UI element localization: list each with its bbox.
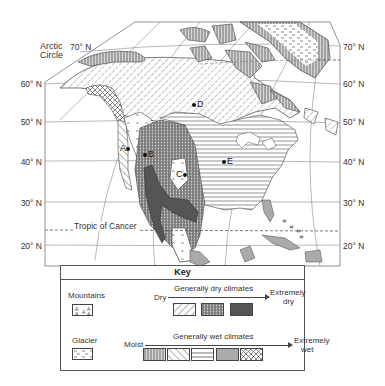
key-wet-end-label-line1: Extremely: [294, 336, 330, 345]
key-wet-heading: Generally wet climates: [173, 332, 253, 341]
lat-label-left-50: 50° N: [0, 118, 42, 127]
key-mountains-label: Mountains: [68, 291, 105, 300]
lat-label-right-50: 50° N: [343, 118, 364, 127]
key-dry-end-label-line2: dry: [283, 297, 294, 306]
glacier-swatch-icon: [72, 348, 93, 360]
point-b-label: B: [148, 149, 154, 159]
wet-gray-swatch-icon: [216, 348, 239, 361]
key-glacier-label: Glacier: [72, 336, 97, 345]
point-e-label: E: [227, 156, 233, 166]
tropic-of-cancer-label: Tropic of Cancer: [73, 222, 138, 231]
svg-text:A: A: [75, 311, 79, 316]
mountains-swatch-icon: A A A A A: [72, 304, 93, 316]
wet-diagonal-swatch-icon: [167, 348, 190, 361]
climate-map-figure: ^: [0, 0, 385, 386]
key-wet-end-label-line2: wet: [301, 345, 313, 354]
point-e-dot: [222, 160, 226, 164]
svg-text:A: A: [82, 309, 86, 315]
key-dry-arrow-line: [168, 297, 266, 298]
point-e: E: [222, 156, 233, 166]
dry-diagonal-swatch-icon: [173, 303, 196, 316]
wet-horizontal-swatch-icon: [191, 348, 214, 361]
key-dry-end-label-line1: Extremely: [270, 288, 306, 297]
key-dry-heading: Generally dry climates: [174, 284, 253, 293]
key-wet-arrow-line: [145, 345, 289, 346]
key-title: Key: [61, 266, 304, 280]
map-key: Key Mountains A A A A A Glacier Dry Gene…: [60, 265, 305, 371]
lat-label-right-30: 30° N: [343, 199, 364, 208]
dry-dotted-swatch-icon: [201, 303, 224, 316]
lat-label-right-40: 40° N: [343, 158, 364, 167]
lat-label-right-60: 60° N: [343, 80, 364, 89]
lat-label-left-40: 40° N: [0, 158, 42, 167]
lat-label-right-70: 70° N: [343, 43, 364, 52]
extremely-wet-crosshatch-swatch-icon: [240, 348, 263, 361]
lat-label-left-70: 70° N: [70, 43, 91, 52]
key-dry-start-label: Dry: [154, 293, 166, 302]
moist-vertical-swatch-icon: [143, 348, 166, 361]
point-a: A: [120, 143, 131, 153]
svg-text:A: A: [87, 311, 91, 316]
point-b-dot: [143, 153, 147, 157]
point-c: C: [176, 169, 188, 179]
extremely-dry-swatch-icon: [230, 303, 253, 316]
point-d-dot: [192, 103, 196, 107]
point-d-label: D: [197, 99, 204, 109]
key-wet-arrow-icon: [288, 342, 293, 348]
point-d: D: [192, 99, 204, 109]
lat-label-left-20: 20° N: [0, 242, 42, 251]
point-b: B: [143, 149, 154, 159]
point-c-dot: [183, 173, 187, 177]
arctic-circle-label-line2: Circle: [40, 51, 63, 60]
point-c-label: C: [176, 169, 183, 179]
point-a-dot: [126, 147, 130, 151]
lat-label-left-30: 30° N: [0, 199, 42, 208]
lat-label-left-60: 60° N: [0, 80, 42, 89]
key-wet-start-label: Moist: [124, 340, 143, 349]
lat-label-right-20: 20° N: [343, 242, 364, 251]
